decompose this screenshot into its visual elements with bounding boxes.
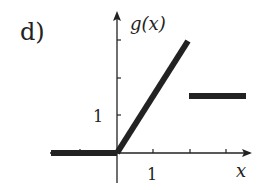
panel-label: d)	[20, 18, 45, 46]
y-axis	[113, 11, 121, 183]
x-axis-label: x	[236, 160, 246, 181]
segment-2	[117, 41, 188, 153]
data-series	[51, 41, 246, 153]
x-tick-label-1: 1	[147, 165, 157, 184]
y-tick-label-1: 1	[93, 107, 103, 126]
chart: d) g(x) x 1 1	[0, 0, 261, 190]
y-axis-label: g(x)	[130, 13, 166, 34]
